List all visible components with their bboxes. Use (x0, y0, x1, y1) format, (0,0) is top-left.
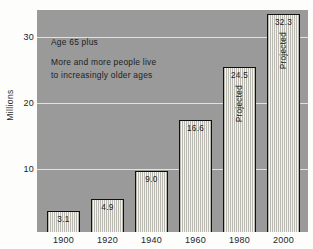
annotation-title: Age 65 plus (51, 38, 156, 47)
bar-1960: 16.6 (179, 120, 212, 232)
chart-annotation: Age 65 plus More and more people live to… (51, 38, 156, 83)
y-tick-label-20: 20 (4, 98, 34, 108)
x-tick-label-1900: 1900 (41, 235, 86, 245)
bar-note-1980: Projected (235, 85, 244, 122)
x-tick-label-1960: 1960 (173, 235, 218, 245)
y-tick-label-10: 10 (4, 164, 34, 174)
x-tick-label-1940: 1940 (129, 235, 174, 245)
bar-value-2000: 32.3 (275, 18, 292, 27)
bar-1900: 3.1 (47, 211, 80, 232)
plot-area: Age 65 plus More and more people live to… (37, 10, 308, 232)
bar-1940: 9.0 (135, 171, 168, 232)
y-axis-ticks: 30 20 10 (0, 0, 34, 249)
bar-value-1900: 3.1 (57, 215, 69, 224)
bar-chart: Millions 30 20 10 Age 65 plus More and m… (0, 0, 313, 249)
bar-1920: 4.9 (91, 199, 124, 232)
bar-value-1920: 4.9 (101, 203, 113, 212)
bar-value-1940: 9.0 (145, 175, 157, 184)
bar-value-1980: 24.5 (231, 71, 248, 80)
x-tick-label-2000: 2000 (261, 235, 306, 245)
annotation-line-2: to increasingly older ages (51, 71, 156, 80)
bar-note-2000: Projected (279, 32, 288, 69)
x-tick-label-1980: 1980 (217, 235, 262, 245)
bar-2000: 32.3 Projected (267, 14, 300, 232)
y-tick-label-30: 30 (4, 32, 34, 42)
x-tick-label-1920: 1920 (85, 235, 130, 245)
bar-1980: 24.5 Projected (223, 67, 256, 232)
x-axis-ticks: 1900 1920 1940 1960 1980 2000 (37, 232, 308, 249)
annotation-line-1: More and more people live (51, 58, 156, 67)
bar-value-1960: 16.6 (187, 124, 204, 133)
